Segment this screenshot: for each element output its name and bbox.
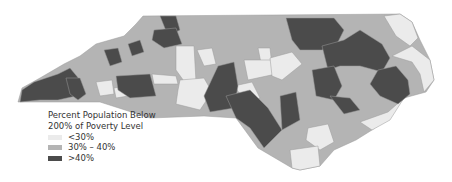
- region-low: [290, 146, 320, 170]
- legend-label-mid: 30% – 40%: [68, 142, 115, 153]
- legend-title-line2: 200% of Poverty Level: [48, 121, 156, 132]
- legend-label-high: >40%: [68, 153, 94, 164]
- legend-swatch-low: [48, 135, 62, 140]
- legend-item-mid: 30% – 40%: [48, 143, 156, 154]
- legend-label-low: <30%: [68, 132, 94, 143]
- legend-item-high: >40%: [48, 153, 156, 164]
- legend-swatch-mid: [48, 145, 62, 150]
- legend-title-line1: Percent Population Below: [48, 110, 156, 121]
- legend-item-low: <30%: [48, 132, 156, 143]
- legend: Percent Population Below 200% of Poverty…: [48, 110, 156, 164]
- legend-swatch-high: [48, 156, 62, 161]
